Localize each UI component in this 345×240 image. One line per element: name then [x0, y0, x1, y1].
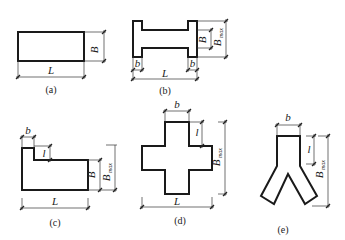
label-Bmax-subscript: max	[107, 163, 113, 173]
label-b-right: b	[190, 57, 196, 69]
caption-b: (b)	[159, 85, 171, 97]
figure-e: b l B max (e)	[261, 111, 330, 236]
figure-d: b l B max L (d)	[140, 98, 227, 227]
label-l: l	[195, 126, 198, 138]
cross-shape	[142, 122, 212, 194]
label-Bmax: B	[100, 174, 112, 181]
figure-b: B B max b b L (b)	[131, 19, 228, 97]
l-shape	[22, 148, 88, 190]
label-Bmax-subscript: max	[320, 160, 326, 170]
label-L: L	[47, 64, 54, 76]
label-B: B	[88, 46, 100, 53]
caption-e: (e)	[277, 224, 288, 236]
i-shape	[133, 21, 197, 57]
caption-c: (c)	[49, 217, 60, 229]
label-Bmax-subscript: max	[218, 28, 224, 38]
label-Bmax: B	[211, 39, 223, 46]
label-L: L	[161, 67, 168, 79]
figure-a: B L (a)	[16, 30, 106, 96]
label-b-left: b	[135, 57, 141, 69]
label-L: L	[173, 195, 180, 207]
plan-shapes-diagram: B L (a) B B max b	[0, 0, 345, 240]
label-B: B	[85, 171, 97, 178]
label-l: l	[42, 147, 45, 159]
label-b: b	[285, 111, 291, 123]
figure-c: b l B B max L (c)	[20, 124, 117, 229]
label-l: l	[307, 143, 310, 155]
label-Bmax: B	[313, 171, 325, 178]
label-b: b	[25, 124, 31, 136]
caption-a: (a)	[45, 84, 56, 96]
label-B: B	[196, 36, 208, 43]
rectangle-shape	[18, 32, 84, 61]
caption-d: (d)	[174, 215, 186, 227]
label-Bmax-subscript: max	[217, 148, 223, 158]
label-b: b	[174, 98, 180, 110]
label-L: L	[51, 195, 58, 207]
label-Bmax: B	[210, 159, 222, 166]
